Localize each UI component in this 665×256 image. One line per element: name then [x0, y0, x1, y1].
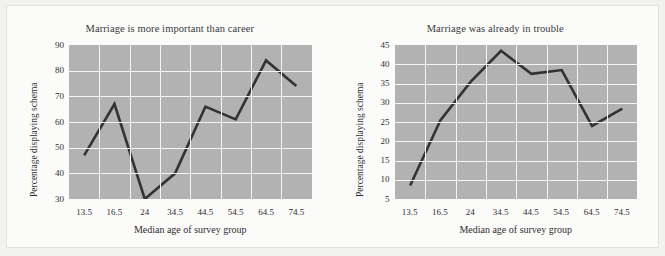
plot-area-right [395, 45, 638, 199]
y-tick-label: 80 [42, 66, 64, 75]
y-tick-label: 50 [42, 143, 64, 152]
x-tick-label: 16.5 [97, 208, 131, 217]
x-tick-label: 74.5 [605, 208, 639, 217]
plot-area-left [69, 45, 312, 199]
x-tick-label: 24 [128, 208, 162, 217]
x-tick-label: 54.5 [544, 208, 578, 217]
x-tick-label: 34.5 [484, 208, 518, 217]
gridline-vertical [425, 45, 426, 199]
x-tick-label: 44.5 [514, 208, 548, 217]
gridline-vertical [251, 45, 252, 199]
x-tick-label: 64.5 [249, 208, 283, 217]
gridline-vertical [160, 45, 161, 199]
x-axis-label-right: Median age of survey group [395, 224, 638, 235]
y-tick-label: 20 [368, 137, 390, 146]
gridline-vertical [190, 45, 191, 199]
gridline-vertical [99, 45, 100, 199]
y-tick-label: 40 [368, 60, 390, 69]
x-tick-label: 34.5 [158, 208, 192, 217]
y-tick-label: 45 [368, 41, 390, 50]
gridline-vertical [547, 45, 548, 199]
plot-wrap-right: Percentage displaying schema Median age … [333, 6, 659, 247]
gridline-vertical [130, 45, 131, 199]
x-tick-label: 64.5 [575, 208, 609, 217]
y-tick-label: 30 [368, 98, 390, 107]
x-tick-label: 16.5 [423, 208, 457, 217]
gridline-vertical [516, 45, 517, 199]
x-tick-label: 13.5 [67, 208, 101, 217]
y-axis-label-right: Percentage displaying schema [355, 83, 365, 198]
y-tick-label: 90 [42, 41, 64, 50]
y-tick-label: 40 [42, 169, 64, 178]
y-axis-label-left: Percentage displaying schema [29, 83, 39, 198]
figure-card: Marriage is more important than career P… [6, 5, 659, 248]
gridline-vertical [456, 45, 457, 199]
gridline-vertical [486, 45, 487, 199]
x-tick-label: 13.5 [393, 208, 427, 217]
x-axis-label-left: Median age of survey group [69, 224, 312, 235]
gridline-vertical [221, 45, 222, 199]
gridline-vertical [281, 45, 282, 199]
y-tick-label: 60 [42, 118, 64, 127]
y-tick-label: 10 [368, 175, 390, 184]
x-tick-label: 44.5 [188, 208, 222, 217]
figure-root: Marriage is more important than career P… [0, 0, 665, 256]
gridline-vertical [577, 45, 578, 199]
y-tick-label: 35 [368, 79, 390, 88]
y-tick-label: 25 [368, 118, 390, 127]
plot-wrap-left: Percentage displaying schema Median age … [7, 6, 333, 247]
y-tick-label: 15 [368, 156, 390, 165]
x-tick-label: 74.5 [279, 208, 313, 217]
y-tick-label: 70 [42, 92, 64, 101]
x-tick-label: 24 [453, 208, 487, 217]
gridline-vertical [607, 45, 608, 199]
y-tick-label: 30 [42, 195, 64, 204]
x-tick-label: 54.5 [219, 208, 253, 217]
chart-panel-right: Marriage was already in trouble Percenta… [333, 6, 659, 247]
y-tick-label: 5 [368, 195, 390, 204]
chart-panel-left: Marriage is more important than career P… [7, 6, 333, 247]
panel-container: Marriage is more important than career P… [7, 6, 658, 247]
